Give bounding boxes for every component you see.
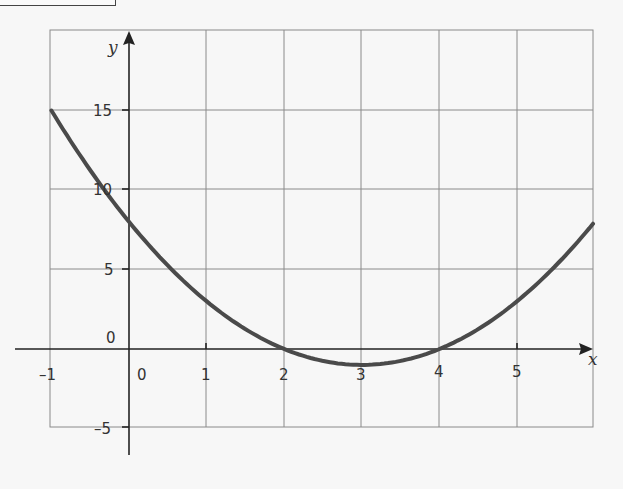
y-tick-neg5: –5	[94, 420, 111, 438]
x-axis-label: x	[588, 349, 598, 369]
x-tick-2: 2	[279, 366, 289, 384]
x-tick-3: 3	[356, 366, 366, 384]
x-tick-1: 1	[201, 366, 211, 384]
y-tick-5: 5	[104, 261, 114, 279]
y-tick-0: 0	[106, 329, 116, 347]
chart: y x 15 10 5 0 –5 –1 0 1 2 3 4 5	[0, 0, 623, 489]
parabola-curve	[51, 111, 593, 365]
y-tick-15: 15	[93, 102, 112, 120]
x-axis	[15, 343, 593, 355]
tick-labels: y x 15 10 5 0 –5 –1 0 1 2 3 4 5	[39, 37, 598, 438]
y-arrow-icon	[123, 31, 135, 45]
y-axis-label: y	[107, 37, 118, 57]
x-tick-4: 4	[434, 363, 444, 381]
x-tick-5: 5	[512, 363, 522, 381]
y-axis	[122, 31, 517, 455]
y-tick-10: 10	[93, 181, 112, 199]
x-tick-0: 0	[137, 366, 147, 384]
x-tick-neg1: –1	[39, 366, 56, 384]
